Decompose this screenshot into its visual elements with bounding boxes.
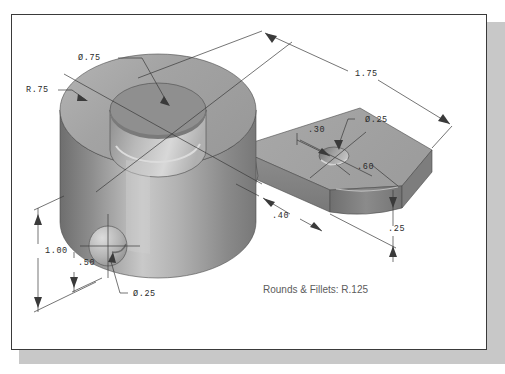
dim-label-overall-length: 1.75 (355, 69, 378, 79)
dim-label-arm-end-offset: .40 (272, 211, 289, 221)
arrow-head (263, 198, 275, 207)
dim-label-dia-top-hole: Ø.75 (78, 53, 101, 63)
boss-wall-highlight (126, 160, 150, 254)
arrow-head (310, 222, 322, 231)
dim-label-side-hole-height: .50 (78, 258, 95, 268)
screenshot-root: Ø.75 R.75 1.75 Ø.25 (0, 0, 505, 374)
dim-label-dia-side-hole: Ø.25 (133, 289, 156, 299)
cylinder-boss (60, 54, 256, 278)
general-note: Rounds & Fillets: R.125 (263, 284, 368, 295)
dim-label-arm-hole-offset: .30 (308, 125, 325, 135)
dim-label-boss-height: 1.00 (45, 246, 68, 256)
arrow-head (34, 297, 42, 308)
arrow-head (265, 33, 277, 43)
arrow-head (70, 277, 78, 288)
arrow-head (34, 214, 42, 225)
dim-label-dia-arm-hole: Ø.25 (365, 115, 388, 125)
dim-label-radius-boss: R.75 (26, 85, 49, 95)
arm-body (235, 108, 432, 214)
cad-drawing: Ø.75 R.75 1.75 Ø.25 (0, 0, 505, 374)
dim-label-arm-thickness: .25 (388, 224, 405, 234)
dim-label-arm-width: .60 (357, 162, 374, 172)
arrow-head (438, 114, 450, 124)
part-solid (60, 54, 432, 278)
